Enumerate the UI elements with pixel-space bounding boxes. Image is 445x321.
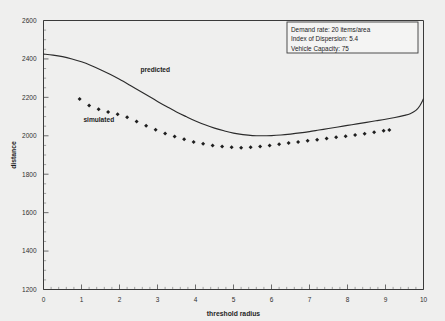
predicted-series-label: predicted <box>140 66 170 74</box>
y-tick-label: 1600 <box>22 209 37 216</box>
y-tick-label: 2000 <box>22 132 37 139</box>
simulated-data-point <box>173 135 177 139</box>
simulated-data-point <box>220 145 224 149</box>
x-tick-label: 4 <box>194 296 198 303</box>
x-tick-label: 1 <box>80 296 84 303</box>
simulated-data-point <box>334 135 338 139</box>
axis-lines <box>44 21 424 290</box>
x-axis-label: threshold radius <box>207 310 260 317</box>
simulated-data-point <box>125 115 129 119</box>
simulated-data-point <box>211 143 215 147</box>
simulated-data-point <box>230 145 234 149</box>
axis-tick-labels: 1200140016001800200022002400260001234567… <box>22 17 427 303</box>
series-annotations: predicted simulated <box>83 66 170 123</box>
simulated-data-point <box>363 132 367 136</box>
y-tick-label: 2200 <box>22 94 37 101</box>
y-tick-label: 1200 <box>22 286 37 293</box>
simulated-data-point <box>182 137 186 141</box>
y-tick-label: 2600 <box>22 17 37 24</box>
axis-ticks <box>44 21 424 290</box>
simulated-series-label: simulated <box>83 116 114 123</box>
simulated-data-point <box>344 134 348 138</box>
simulated-data-point <box>306 139 310 143</box>
simulated-data-point <box>163 131 167 135</box>
x-tick-label: 9 <box>384 296 388 303</box>
simulated-data-point <box>258 145 262 149</box>
simulated-data-point <box>116 112 120 116</box>
simulated-data-point <box>192 140 196 144</box>
simulated-data-point <box>97 107 101 111</box>
data-series-layer <box>44 54 424 150</box>
simulated-data-point <box>144 124 148 128</box>
simulated-data-point <box>154 128 158 132</box>
simulated-data-point <box>135 120 139 124</box>
simulated-data-point <box>287 141 291 145</box>
x-tick-label: 0 <box>42 296 46 303</box>
chart-canvas: 1200140016001800200022002400260001234567… <box>0 0 445 321</box>
y-tick-label: 1400 <box>22 247 37 254</box>
simulated-series-markers <box>78 97 392 150</box>
simulated-data-point <box>106 110 110 114</box>
legend-line-index-of-dispersion: Index of Dispersion: 5.4 <box>291 35 359 43</box>
simulated-data-point <box>201 142 205 146</box>
simulated-data-point <box>87 103 91 107</box>
x-tick-label: 6 <box>270 296 274 303</box>
legend-line-demand-rate: Demand rate: 20 items/area <box>291 26 371 33</box>
y-tick-label: 2400 <box>22 55 37 62</box>
simulated-data-point <box>387 128 391 132</box>
simulated-data-point <box>296 140 300 144</box>
parameter-legend-box: Demand rate: 20 items/area Index of Disp… <box>287 22 418 53</box>
y-tick-label: 1800 <box>22 171 37 178</box>
y-axis-label: distance <box>10 141 17 169</box>
plot-frame <box>44 21 424 290</box>
x-tick-label: 2 <box>118 296 122 303</box>
simulated-data-point <box>78 97 82 101</box>
distance-vs-threshold-radius-chart: 1200140016001800200022002400260001234567… <box>0 0 445 321</box>
simulated-data-point <box>353 133 357 137</box>
simulated-data-point <box>382 129 386 133</box>
simulated-data-point <box>315 138 319 142</box>
simulated-data-point <box>277 142 281 146</box>
simulated-data-point <box>239 146 243 150</box>
x-tick-label: 7 <box>308 296 312 303</box>
legend-line-vehicle-capacity: Vehicle Capacity: 75 <box>291 45 349 53</box>
simulated-data-point <box>249 145 253 149</box>
x-tick-label: 3 <box>156 296 160 303</box>
simulated-data-point <box>372 130 376 134</box>
x-tick-label: 10 <box>420 296 428 303</box>
simulated-data-point <box>268 143 272 147</box>
x-tick-label: 5 <box>232 296 236 303</box>
predicted-series-line <box>44 54 424 136</box>
simulated-data-point <box>325 136 329 140</box>
x-tick-label: 8 <box>346 296 350 303</box>
